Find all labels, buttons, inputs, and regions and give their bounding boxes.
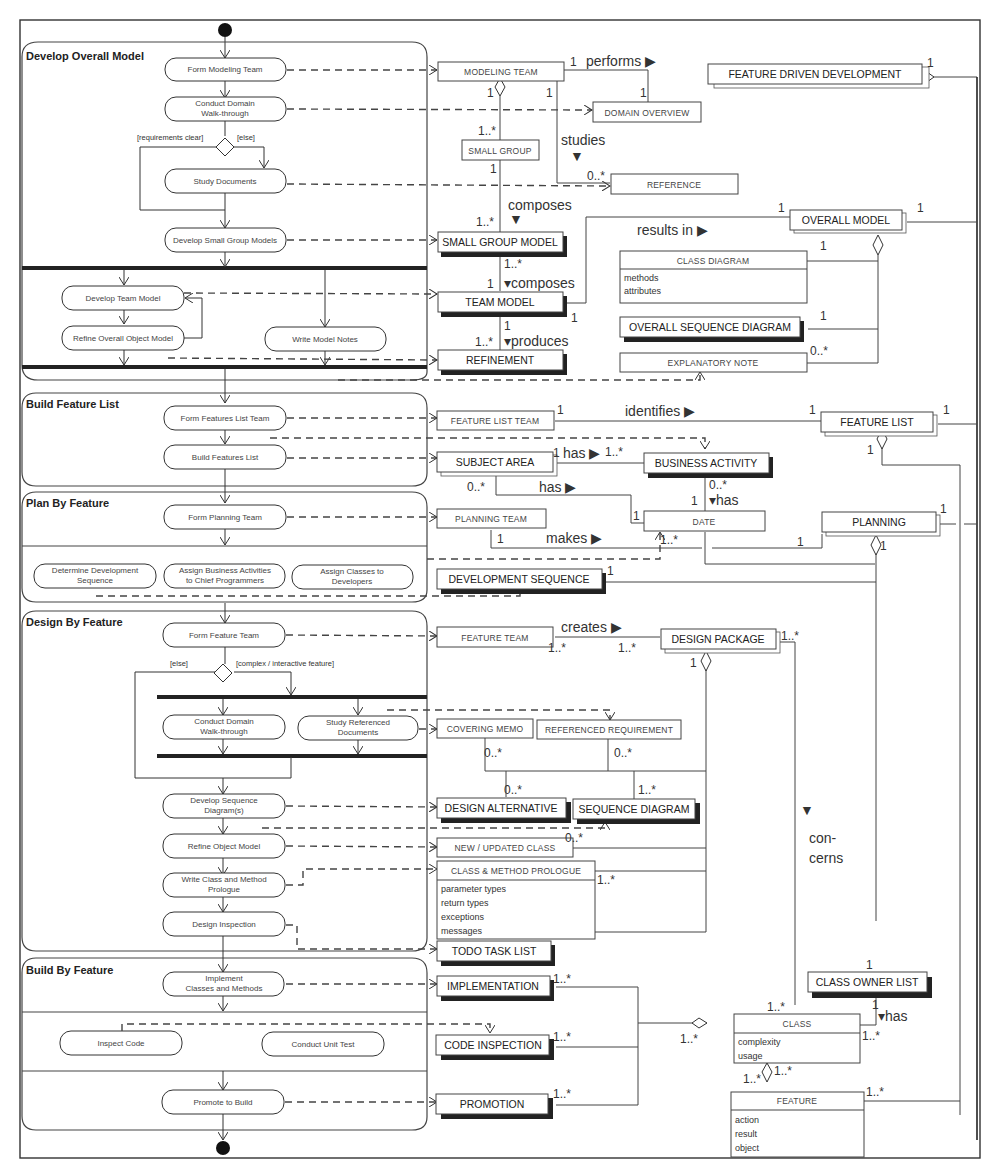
- class-sequence-diagram[interactable]: SEQUENCE DIAGRAM: [573, 799, 700, 824]
- svg-text:Design Inspection: Design Inspection: [192, 920, 256, 929]
- activity-inspect-code[interactable]: Inspect Code: [60, 1031, 182, 1055]
- class-small-group[interactable]: SMALL GROUP: [462, 140, 539, 160]
- class-overall-model[interactable]: OVERALL MODEL: [790, 210, 906, 233]
- activity-study-referenced-documents[interactable]: Study Referenced Documents: [298, 716, 418, 740]
- activity-refine-object-model[interactable]: Refine Object Model: [163, 834, 285, 858]
- svg-text:SUBJECT AREA: SUBJECT AREA: [456, 456, 535, 468]
- svg-text:Sequence: Sequence: [77, 576, 114, 585]
- class-development-sequence[interactable]: DEVELOPMENT SEQUENCE: [437, 569, 606, 594]
- svg-text:1..*: 1..*: [548, 641, 566, 655]
- class-feature-list[interactable]: FEATURE LIST: [821, 412, 937, 436]
- class-class-diagram[interactable]: CLASS DIAGRAM methods attributes: [620, 251, 807, 303]
- class-class-owner-list[interactable]: CLASS OWNER LIST: [808, 972, 932, 998]
- class-class-method-prologue[interactable]: CLASS & METHOD PROLOGUE parameter types …: [437, 861, 595, 939]
- class-planning[interactable]: PLANNING: [822, 512, 940, 536]
- svg-text:REFERENCE: REFERENCE: [647, 180, 701, 190]
- activity-conduct-domain-walkthrough-2[interactable]: Conduct Domain Walk-through: [163, 715, 285, 739]
- svg-text:usage: usage: [738, 1051, 763, 1061]
- svg-text:Refine Overall Object Model: Refine Overall Object Model: [73, 334, 173, 343]
- aggregation-diamond: [762, 1063, 772, 1082]
- class-design-alternative[interactable]: DESIGN ALTERNATIVE: [437, 798, 571, 823]
- svg-text:Form Planning Team: Form Planning Team: [188, 513, 262, 522]
- activity-implement-classes[interactable]: Implement Classes and Methods: [163, 972, 284, 996]
- class-code-inspection[interactable]: CODE INSPECTION: [436, 1035, 554, 1060]
- activity-refine-overall-object-model[interactable]: Refine Overall Object Model: [62, 326, 184, 350]
- class-feature[interactable]: FEATURE action result object: [731, 1092, 864, 1157]
- svg-text:TEAM MODEL: TEAM MODEL: [465, 296, 535, 308]
- svg-text:1: 1: [497, 532, 504, 546]
- activity-design-inspection[interactable]: Design Inspection: [163, 912, 285, 936]
- svg-text:1: 1: [927, 56, 934, 70]
- class-covering-memo[interactable]: COVERING MEMO: [437, 719, 533, 738]
- svg-text:▼: ▼: [509, 211, 523, 227]
- aggregation-diamond: [701, 651, 711, 671]
- activity-promote-to-build[interactable]: Promote to Build: [162, 1090, 284, 1114]
- svg-text:Walk-through: Walk-through: [200, 727, 247, 736]
- svg-text:1: 1: [940, 502, 947, 516]
- svg-text:1: 1: [553, 446, 560, 460]
- svg-text:1: 1: [487, 277, 494, 291]
- class-explanatory-note[interactable]: EXPLANATORY NOTE: [620, 353, 807, 372]
- svg-text:return types: return types: [441, 898, 489, 908]
- activity-study-documents[interactable]: Study Documents: [165, 169, 286, 193]
- svg-text:▾has: ▾has: [878, 1008, 908, 1024]
- activity-write-model-notes[interactable]: Write Model Notes: [265, 327, 386, 351]
- class-overall-sequence-diagram[interactable]: OVERALL SEQUENCE DIAGRAM: [620, 317, 804, 342]
- svg-text:1..*: 1..*: [553, 1030, 571, 1044]
- svg-text:1: 1: [571, 311, 578, 325]
- class-modeling-team[interactable]: MODELING TEAM: [438, 62, 564, 81]
- svg-text:FEATURE TEAM: FEATURE TEAM: [461, 633, 528, 643]
- activity-determine-development-sequence[interactable]: Determine Development Sequence: [34, 564, 156, 588]
- svg-text:1: 1: [504, 319, 511, 333]
- class-new-updated-class[interactable]: NEW / UPDATED CLASS: [437, 838, 573, 857]
- activity-form-modeling-team[interactable]: Form Modeling Team: [165, 58, 286, 81]
- class-design-package[interactable]: DESIGN PACKAGE: [661, 629, 780, 653]
- activity-assign-business-activities[interactable]: Assign Business Activities to Chief Prog…: [164, 564, 285, 588]
- svg-text:1: 1: [557, 403, 564, 417]
- svg-text:COVERING MEMO: COVERING MEMO: [447, 724, 524, 734]
- activity-form-planning-team[interactable]: Form Planning Team: [164, 505, 286, 529]
- class-reference[interactable]: REFERENCE: [611, 174, 738, 194]
- activity-build-features-list[interactable]: Build Features List: [164, 445, 286, 469]
- class-subject-area[interactable]: SUBJECT AREA: [437, 452, 557, 476]
- class-small-group-model[interactable]: SMALL GROUP MODEL: [438, 232, 567, 257]
- class-todo-task-list[interactable]: TODO TASK LIST: [437, 941, 555, 966]
- class-team-model[interactable]: TEAM MODEL: [438, 292, 567, 317]
- activity-assign-classes[interactable]: Assign Classes to Developers: [292, 565, 413, 589]
- svg-text:DOMAIN OVERVIEW: DOMAIN OVERVIEW: [604, 108, 689, 118]
- svg-text:Promote to Build: Promote to Build: [193, 1098, 252, 1107]
- class-planning-team[interactable]: PLANNING TEAM: [437, 509, 546, 528]
- class-feature-driven-development[interactable]: FEATURE DRIVEN DEVELOPMENT: [708, 64, 929, 88]
- activity-form-features-list-team[interactable]: Form Features List Team: [164, 406, 286, 430]
- svg-text:▼: ▼: [800, 802, 814, 818]
- svg-text:Prologue: Prologue: [208, 885, 241, 894]
- class-feature-list-team[interactable]: FEATURE LIST TEAM: [437, 411, 554, 430]
- svg-text:Documents: Documents: [338, 728, 378, 737]
- svg-text:CLASS & METHOD PROLOGUE: CLASS & METHOD PROLOGUE: [451, 866, 581, 876]
- class-date[interactable]: DATE: [644, 511, 765, 531]
- class-business-activity[interactable]: BUSINESS ACTIVITY: [644, 453, 773, 478]
- activity-conduct-domain-walkthrough[interactable]: Conduct Domain Walk-through: [165, 97, 286, 121]
- svg-text:CODE INSPECTION: CODE INSPECTION: [444, 1039, 541, 1051]
- class-refinement[interactable]: REFINEMENT: [438, 350, 567, 375]
- region-title: Build Feature List: [26, 398, 119, 410]
- svg-text:methods: methods: [624, 273, 659, 283]
- class-promotion[interactable]: PROMOTION: [436, 1094, 553, 1119]
- class-referenced-requirement[interactable]: REFERENCED REQUIREMENT: [537, 720, 681, 739]
- svg-text:con-: con-: [809, 830, 837, 846]
- activity-develop-sequence-diagrams[interactable]: Develop Sequence Diagram(s): [163, 794, 285, 818]
- svg-text:DATE: DATE: [693, 517, 716, 527]
- svg-text:1..*: 1..*: [767, 1000, 785, 1014]
- initial-node: [218, 23, 232, 37]
- class-feature-team[interactable]: FEATURE TEAM: [437, 627, 553, 647]
- class-implementation[interactable]: IMPLEMENTATION: [437, 976, 554, 1001]
- activity-write-class-method-prologue[interactable]: Write Class and Method Prologue: [163, 873, 285, 897]
- activity-form-feature-team[interactable]: Form Feature Team: [163, 623, 285, 647]
- svg-text:creates ▶: creates ▶: [561, 619, 622, 635]
- class-class[interactable]: CLASS complexity usage: [734, 1014, 860, 1063]
- activity-develop-small-group-models[interactable]: Develop Small Group Models: [165, 228, 286, 252]
- activity-develop-team-model[interactable]: Develop Team Model: [62, 286, 184, 310]
- svg-text:1: 1: [546, 86, 553, 100]
- activity-conduct-unit-test[interactable]: Conduct Unit Test: [262, 1032, 384, 1056]
- class-domain-overview[interactable]: DOMAIN OVERVIEW: [593, 102, 701, 122]
